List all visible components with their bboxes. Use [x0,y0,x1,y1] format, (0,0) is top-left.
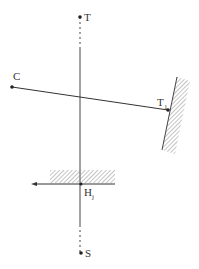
horizontal-mirror-hatch [50,170,115,183]
point-c [10,85,14,89]
label-t: T [84,11,91,23]
label-t1-subscript: 1 [164,103,168,111]
point-t [78,15,82,19]
ray-c-t1 [12,87,168,110]
point-hj [80,183,83,186]
label-t1: T [157,96,164,108]
arrow-left-icon [31,182,37,186]
label-hj: H [84,186,92,198]
reflection-diagram: T C T 1 H j S [0,0,199,269]
tilted-mirror-hatch [162,77,190,154]
point-s [79,251,83,255]
label-c: C [13,70,20,82]
label-s: S [85,247,91,259]
label-hj-subscript: j [91,193,94,201]
